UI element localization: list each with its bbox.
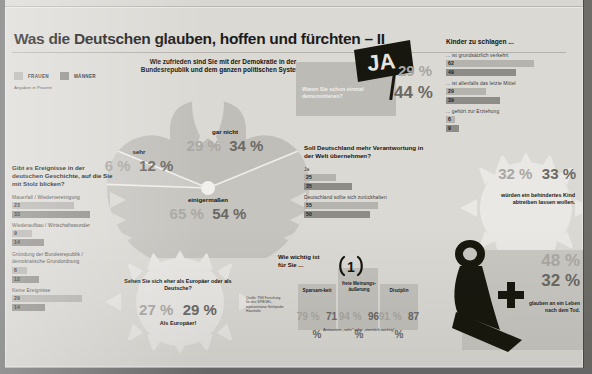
important-col-1-label: freie Meinungs-äußerung: [338, 281, 380, 292]
segment-einigermassen-men: 54 %: [212, 205, 246, 222]
europe-men: 29 %: [183, 301, 217, 318]
podium-rank: 1: [347, 259, 355, 275]
history-item-1-women: 9: [14, 230, 17, 237]
segment-gar-nicht-label: gar nicht: [170, 128, 280, 135]
page-edge-left: [0, 0, 5, 374]
protest-sign-text: JA: [366, 48, 397, 76]
important-col-2-values: 91 % 87 %: [378, 306, 420, 342]
history-item-3-women: 29: [14, 295, 20, 302]
children-panel: Kinder zu schlagen ... ... ist grundsätz…: [446, 38, 572, 137]
abortion-values: 32 % 33 %: [492, 165, 576, 183]
history-item-2-women: 6: [14, 267, 17, 274]
important-col-2-label: Disziplin: [380, 288, 418, 294]
europe-question: Sehen Sie sich eher als Europäer oder al…: [118, 278, 238, 292]
children-item-1-label: ... ist allenfalls das letzte Mittel: [446, 81, 572, 86]
laurel-wreath-icon: 1: [336, 252, 366, 280]
children-item-0-label: ... ist grundsätzlich verkehrt: [446, 53, 572, 58]
history-item-0-men: 33: [14, 211, 20, 218]
history-item-1: Wiederaufbau / Wirtschaftswunder 9 14: [12, 223, 116, 246]
responsibility-item-0-women: 25: [306, 174, 312, 181]
important-col-0-women: 79 %: [297, 311, 320, 322]
important-col-0-label: Sparsam-keit: [298, 288, 336, 294]
afterlife-men-value: 32 %: [508, 272, 580, 290]
afterlife-men: 32 %: [541, 271, 580, 290]
afterlife-text: glauben an ein Leben nach dem Tod.: [516, 300, 580, 313]
history-item-0-women: 23: [14, 202, 20, 209]
legend: FRAUEN MÄNNER: [14, 72, 96, 80]
important-col-2-women: 91 %: [379, 311, 402, 322]
important-col-1-women: 94 %: [339, 311, 362, 322]
children-item-0-men: 49: [448, 69, 454, 76]
history-item-1-men: 14: [14, 239, 20, 246]
responsibility-item-1-women: 55: [306, 202, 312, 209]
segment-sehr-men: 12 %: [139, 157, 173, 174]
segment-einigermassen: einigermaßen 65 % 54 %: [152, 196, 264, 223]
children-item-0-women: 62: [448, 60, 454, 67]
segment-einigermassen-label: einigermaßen: [152, 196, 264, 203]
history-item-1-label: Wiederaufbau / Wirtschaftswunder: [12, 223, 116, 228]
afterlife-women: 48 %: [541, 251, 580, 270]
demonstrate-men: 44 %: [394, 83, 433, 102]
children-item-1: ... ist allenfalls das letzte Mittel 29 …: [446, 81, 572, 104]
infographic-page: Was die Deutschen glauben, hoffen und fü…: [0, 0, 592, 374]
responsibility-item-1: Deutschland sollte sich zurückhalten 55 …: [304, 195, 432, 218]
europe-values: 27 % 29 %: [118, 301, 238, 319]
history-item-3-label: Keine Ereignisse: [12, 288, 116, 293]
important-col-0-values: 79 % 71 %: [296, 306, 338, 342]
important-footnote: Antworten „sehr“ oder „ziemlich wichtig“: [300, 327, 418, 332]
afterlife-women-value: 48 %: [508, 252, 580, 270]
legend-swatch-men: [60, 72, 69, 80]
legend-label-women: FRAUEN: [28, 74, 49, 79]
segment-gar-nicht: gar nicht 29 % 34 %: [170, 128, 280, 155]
children-question: Kinder zu schlagen ...: [446, 38, 572, 46]
page-edge-bottom: [0, 368, 592, 374]
responsibility-item-1-men: 50: [306, 211, 312, 218]
history-item-3-men: 14: [14, 304, 20, 311]
children-item-2: ... gehört zur Erziehung 6 9: [446, 109, 572, 132]
segment-gar-nicht-men: 34 %: [229, 137, 263, 154]
history-item-0-label: Mauerfall / Wiedervereinigung: [12, 195, 116, 200]
eagle-pie-svg: [96, 88, 320, 268]
segment-einigermassen-women: 65 %: [170, 205, 204, 222]
source-note: Quelle: TNS Forschung für den SPIEGEL, r…: [246, 296, 284, 314]
history-item-3: Keine Ereignisse 29 14: [12, 288, 116, 311]
history-question: Gibt es Ereignisse in der deutschen Gesc…: [12, 164, 116, 188]
responsibility-item-0-men: 35: [306, 183, 312, 190]
children-item-2-women: 6: [448, 116, 451, 123]
europe-women: 27 %: [139, 301, 173, 318]
important-col-1-values: 94 % 96 %: [338, 306, 380, 342]
demonstrate-women: 29 %: [398, 62, 432, 79]
page-title: Was die Deutschen glauben, hoffen und fü…: [14, 30, 385, 48]
responsibility-item-0-label: Ja: [304, 167, 432, 172]
segment-sehr-label: sehr: [96, 148, 182, 155]
abortion-men: 33 %: [542, 165, 576, 182]
responsibility-item-1-label: Deutschland sollte sich zurückhalten: [304, 195, 432, 200]
segment-gar-nicht-women: 29 %: [187, 137, 221, 154]
responsibility-item-0: Ja 25 35: [304, 167, 432, 190]
page-edge-right: [583, 0, 592, 374]
demonstrate-women-value: 29 %: [398, 62, 446, 80]
demonstrate-men-value: 44 %: [394, 84, 446, 102]
democracy-question: Wie zufrieden sind Sie mit der Demokrati…: [137, 58, 309, 74]
democracy-eagle-chart: [96, 88, 320, 268]
children-item-0: ... ist grundsätzlich verkehrt 62 49: [446, 53, 572, 76]
children-item-1-women: 29: [448, 88, 454, 95]
abortion-women: 32 %: [498, 165, 532, 182]
abortion-text: würden ein behindertes Kind abtreiben la…: [495, 192, 575, 207]
history-item-2: Gründung der Bundesrepublik / demokratis…: [12, 251, 116, 283]
history-panel: Gibt es Ereignisse in der deutschen Gesc…: [12, 164, 116, 316]
legend-swatch-women: [14, 72, 23, 80]
children-item-2-men: 9: [448, 125, 451, 132]
history-item-2-men: 12: [14, 276, 20, 283]
children-item-1-men: 39: [448, 97, 454, 104]
responsibility-question: Soll Deutschland mehr Verantwortung in d…: [304, 144, 432, 160]
legend-label-men: MÄNNER: [74, 74, 96, 79]
units-note: Angaben in Prozent: [14, 85, 52, 90]
history-item-0: Mauerfall / Wiedervereinigung 23 33: [12, 195, 116, 218]
history-item-2-label: Gründung der Bundesrepublik / demokratis…: [12, 251, 116, 265]
children-item-2-label: ... gehört zur Erziehung: [446, 109, 572, 114]
responsibility-panel: Soll Deutschland mehr Verantwortung in d…: [304, 144, 432, 223]
europe-answer: Als Europäer!: [118, 320, 238, 326]
